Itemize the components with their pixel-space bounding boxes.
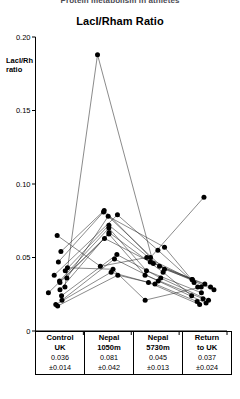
series-lines [48, 55, 214, 306]
data-point [143, 273, 148, 278]
data-point [211, 287, 216, 292]
summary-cell-sd: ±0.024 [183, 363, 231, 373]
data-point [64, 276, 69, 281]
summary-cell-inner: ControlUK0.036±0.014 [36, 333, 84, 372]
figure-container: Protein metabolism in athletes LacI/Rham… [0, 0, 240, 399]
data-point [114, 252, 119, 257]
data-point [52, 273, 57, 278]
data-point [199, 290, 204, 295]
data-point [115, 212, 120, 217]
data-point [144, 268, 149, 273]
data-point [106, 226, 111, 231]
data-point [59, 293, 64, 298]
data-point [201, 296, 206, 301]
data-point [95, 52, 100, 57]
summary-cell-sd: ±0.042 [85, 363, 133, 373]
data-point [57, 287, 62, 292]
data-point [109, 270, 114, 275]
data-point [46, 290, 51, 295]
data-point [115, 273, 120, 278]
summary-cell-mean: 0.037 [183, 353, 231, 363]
summary-cell: Returnto UK0.037±0.024 [183, 332, 232, 375]
data-point [55, 233, 60, 238]
summary-cell-inner: Nepal5730m0.045±0.013 [134, 333, 182, 372]
data-point [102, 236, 107, 241]
data-point [65, 265, 70, 270]
data-point [62, 284, 67, 289]
summary-cell: ControlUK0.036±0.014 [36, 332, 85, 375]
summary-cell-sd: ±0.014 [36, 363, 84, 373]
data-point [56, 259, 61, 264]
data-point [199, 284, 204, 289]
summary-cell-label-line1: Return [183, 333, 231, 343]
data-point [59, 298, 64, 303]
series-line [57, 235, 192, 279]
series-line [58, 275, 198, 306]
data-point [161, 270, 166, 275]
data-point [144, 255, 149, 260]
y-axis-tick-label: 0.05 [16, 253, 31, 262]
data-point [146, 280, 151, 285]
y-axis-tick-label: 0.15 [16, 106, 31, 115]
summary-cell-label-line1: Nepal [134, 333, 182, 343]
summary-cell-mean: 0.045 [134, 353, 182, 363]
data-point [157, 264, 162, 269]
summary-cell-label-line2: 5730m [134, 343, 182, 353]
data-point [57, 280, 62, 285]
summary-cell: Nepal5730m0.045±0.013 [134, 332, 183, 375]
y-axis-tick-label: 0.20 [16, 33, 31, 42]
summary-cell-label-line2: UK [36, 343, 84, 353]
data-point [195, 299, 200, 304]
data-point [152, 281, 157, 286]
y-axis-ticks: 00.050.100.150.20 [16, 33, 36, 336]
summary-cell-label-line2: to UK [183, 343, 231, 353]
y-axis-tick-label: 0.10 [16, 180, 31, 189]
data-point [190, 277, 195, 282]
summary-cell-inner: Nepal1050m0.081±0.042 [85, 333, 133, 372]
table-row: ControlUK0.036±0.014Nepal1050m0.081±0.04… [36, 332, 232, 375]
data-point [101, 209, 106, 214]
data-point [58, 249, 63, 254]
summary-cell-label-line1: Control [36, 333, 84, 343]
data-point [55, 304, 60, 309]
series-line [67, 268, 201, 300]
data-point [162, 245, 167, 250]
y-axis-tick-label: 0 [26, 327, 30, 336]
summary-cell-mean: 0.036 [36, 353, 84, 363]
data-point [106, 231, 111, 236]
data-point [98, 264, 103, 269]
data-point [201, 195, 206, 200]
data-point [106, 214, 111, 219]
summary-cell-sd: ±0.013 [134, 363, 182, 373]
data-point [112, 256, 117, 261]
summary-cell-label-line1: Nepal [85, 333, 133, 343]
data-point [148, 259, 153, 264]
summary-cell-mean: 0.081 [85, 353, 133, 363]
summary-table: ControlUK0.036±0.014Nepal1050m0.081±0.04… [35, 331, 232, 375]
data-point [189, 293, 194, 298]
data-point [155, 248, 160, 253]
summary-cell-label-line2: 1050m [85, 343, 133, 353]
data-point [204, 301, 209, 306]
summary-cell-inner: Returnto UK0.037±0.024 [183, 333, 231, 372]
summary-cell: Nepal1050m0.081±0.042 [85, 332, 134, 375]
data-point [143, 298, 148, 303]
